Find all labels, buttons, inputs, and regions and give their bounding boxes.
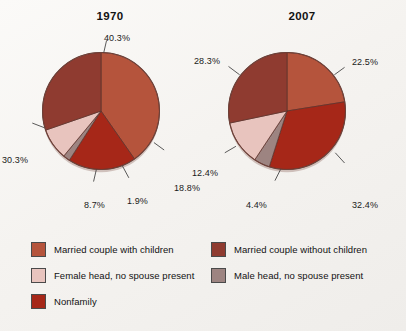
pie-chart-1970 xyxy=(36,46,166,176)
pie-1970-label-married-without-children: 30.3% xyxy=(2,155,28,165)
legend-item-label: Married couple with children xyxy=(54,244,174,255)
pie-2007-label-married-without-children: 28.3% xyxy=(194,56,220,66)
legend-swatch-icon xyxy=(31,242,46,257)
pie-2007-slices xyxy=(229,53,346,170)
pie-1970-slices xyxy=(43,53,160,170)
chart-legend: Married couple with children Female head… xyxy=(0,238,406,331)
legend-swatch-icon xyxy=(31,294,46,309)
legend-item-label: Male head, no spouse present xyxy=(234,270,363,281)
legend-item: Nonfamily xyxy=(31,290,221,313)
legend-swatch-icon xyxy=(31,268,46,283)
legend-item: Married couple without children xyxy=(211,238,406,261)
pie-2007-label-married-with-children: 22.5% xyxy=(352,57,378,67)
legend-column-left: Married couple with children Female head… xyxy=(31,238,221,316)
chart-title-1970: 1970 xyxy=(80,10,140,22)
pie-1970-label-male-head: 1.9% xyxy=(127,196,148,206)
legend-item: Female head, no spouse present xyxy=(31,264,221,287)
charts-container: 1970 40.3% 18.8% 1.9% 8.7% 30.3% 2007 xyxy=(0,0,406,236)
legend-item: Married couple with children xyxy=(31,238,221,261)
legend-swatch-icon xyxy=(211,242,226,257)
legend-swatch-icon xyxy=(211,268,226,283)
chart-title-2007: 2007 xyxy=(272,10,332,22)
pie-2007-label-nonfamily: 32.4% xyxy=(352,200,378,210)
pie-2007-label-female-head: 12.4% xyxy=(192,168,218,178)
pie-1970-label-married-with-children: 40.3% xyxy=(104,33,130,43)
pie-slice xyxy=(287,53,345,112)
pie-chart-2007 xyxy=(222,46,352,176)
legend-item: Male head, no spouse present xyxy=(211,264,406,287)
pie-1970-label-nonfamily: 18.8% xyxy=(174,183,200,193)
legend-column-right: Married couple without children Male hea… xyxy=(211,238,406,290)
pie-slice xyxy=(229,53,287,124)
legend-item-label: Female head, no spouse present xyxy=(54,270,194,281)
pie-2007-label-male-head: 4.4% xyxy=(246,200,267,210)
legend-item-label: Nonfamily xyxy=(54,296,97,307)
pie-1970-label-female-head: 8.7% xyxy=(84,200,105,210)
legend-item-label: Married couple without children xyxy=(234,244,367,255)
